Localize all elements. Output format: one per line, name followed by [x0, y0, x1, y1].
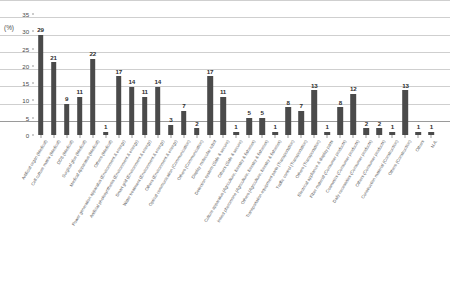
bar-slot[interactable]: 3: [164, 14, 177, 135]
bar-slot[interactable]: 17: [203, 14, 216, 135]
bar[interactable]: [337, 107, 343, 135]
bar-slot[interactable]: 2: [190, 14, 203, 135]
bar-slot[interactable]: 13: [308, 14, 321, 135]
bar-value-label: 14: [128, 78, 134, 85]
bars-layer: 2921911221171411143721711155187131812221…: [34, 14, 438, 135]
bar[interactable]: [51, 62, 57, 135]
bar[interactable]: [194, 128, 200, 135]
bar-slot[interactable]: 5: [256, 14, 269, 135]
bar-slot[interactable]: 21: [47, 14, 60, 135]
bar-slot[interactable]: 8: [282, 14, 295, 135]
bar[interactable]: [168, 125, 174, 135]
y-tick-label: 20: [22, 62, 29, 69]
bar[interactable]: [298, 111, 304, 135]
bar-slot[interactable]: 7: [295, 14, 308, 135]
bar[interactable]: [220, 97, 226, 135]
y-tick-label: 30: [22, 28, 29, 35]
bar-value-label: 8: [339, 99, 342, 106]
bar-chart: (%) 05101520253035 292191122117141114372…: [0, 0, 450, 296]
bar-value-label: 14: [155, 78, 161, 85]
bar-value-label: 2: [378, 120, 381, 127]
bar[interactable]: [364, 128, 370, 135]
bar-slot[interactable]: 14: [125, 14, 138, 135]
bar-value-label: 2: [365, 120, 368, 127]
bar-value-label: 13: [402, 82, 408, 89]
y-tick-label: 5: [26, 114, 29, 121]
bar[interactable]: [207, 76, 213, 135]
bar-slot[interactable]: 1: [386, 14, 399, 135]
bar-value-label: 1: [273, 123, 276, 130]
bar-slot[interactable]: 5: [243, 14, 256, 135]
bar-slot[interactable]: 7: [177, 14, 190, 135]
bar-value-label: 21: [50, 54, 56, 61]
bar-value-label: 22: [89, 50, 95, 57]
bar-slot[interactable]: 1: [425, 14, 438, 135]
bar-value-label: 7: [182, 102, 185, 109]
bar-slot[interactable]: 1: [269, 14, 282, 135]
bar-slot[interactable]: 1: [99, 14, 112, 135]
bar[interactable]: [155, 87, 161, 135]
y-tick-label: 0: [26, 132, 29, 139]
bar[interactable]: [38, 35, 44, 135]
bar[interactable]: [90, 59, 96, 135]
bar[interactable]: [77, 97, 83, 135]
bar-slot[interactable]: 29: [34, 14, 47, 135]
y-axis-unit-label: (%): [4, 24, 14, 31]
bar-slot[interactable]: 11: [138, 14, 151, 135]
y-axis: (%) 05101520253035: [0, 14, 34, 135]
bar-value-label: 3: [169, 116, 172, 123]
bar-value-label: 5: [247, 109, 250, 116]
bar-value-label: 29: [37, 26, 43, 33]
bar-value-label: 1: [104, 123, 107, 130]
bar-slot[interactable]: 11: [216, 14, 229, 135]
bar-value-label: 9: [65, 95, 68, 102]
bar-slot[interactable]: 11: [73, 14, 86, 135]
bar-slot[interactable]: 1: [229, 14, 242, 135]
bar-value-label: 12: [350, 85, 356, 92]
bar[interactable]: [246, 118, 252, 135]
bar-slot[interactable]: 14: [151, 14, 164, 135]
x-axis-label: Others: [415, 139, 426, 153]
bar-value-label: 1: [417, 123, 420, 130]
x-axis-label: N.A.: [430, 139, 439, 149]
y-tick-label: 25: [22, 45, 29, 52]
bar-slot[interactable]: 9: [60, 14, 73, 135]
bar[interactable]: [64, 104, 70, 135]
bar-value-label: 1: [391, 123, 394, 130]
bar-slot[interactable]: 1: [412, 14, 425, 135]
bar-slot[interactable]: 13: [399, 14, 412, 135]
bar-value-label: 17: [115, 68, 121, 75]
bar-slot[interactable]: 2: [373, 14, 386, 135]
bar-slot[interactable]: 8: [334, 14, 347, 135]
bar-value-label: 11: [220, 88, 226, 95]
bar-value-label: 2: [195, 120, 198, 127]
bar-slot[interactable]: 22: [86, 14, 99, 135]
bar[interactable]: [285, 107, 291, 135]
y-tick-label: 35: [22, 11, 29, 18]
bar-slot[interactable]: 12: [347, 14, 360, 135]
bar-value-label: 7: [300, 102, 303, 109]
bar-value-label: 1: [430, 123, 433, 130]
bar[interactable]: [311, 90, 317, 135]
bar-value-label: 5: [260, 109, 263, 116]
bar-value-label: 1: [326, 123, 329, 130]
bar-slot[interactable]: 17: [112, 14, 125, 135]
bar[interactable]: [350, 94, 356, 135]
bar-slot[interactable]: 1: [321, 14, 334, 135]
bar[interactable]: [129, 87, 135, 135]
bar-value-label: 1: [234, 123, 237, 130]
y-tick-label: 10: [22, 97, 29, 104]
bar[interactable]: [116, 76, 122, 135]
bar-value-label: 11: [77, 88, 83, 95]
bar-value-label: 13: [311, 82, 317, 89]
bar[interactable]: [181, 111, 187, 135]
bar[interactable]: [377, 128, 383, 135]
gridline: [0, 0, 450, 1]
bar-value-label: 17: [207, 68, 213, 75]
bar[interactable]: [142, 97, 148, 135]
bar-value-label: 11: [142, 88, 148, 95]
bar[interactable]: [259, 118, 265, 135]
x-axis-labels: Artificial organ (Medical)Cell culture m…: [34, 137, 438, 295]
bar[interactable]: [403, 90, 409, 135]
bar-slot[interactable]: 2: [360, 14, 373, 135]
